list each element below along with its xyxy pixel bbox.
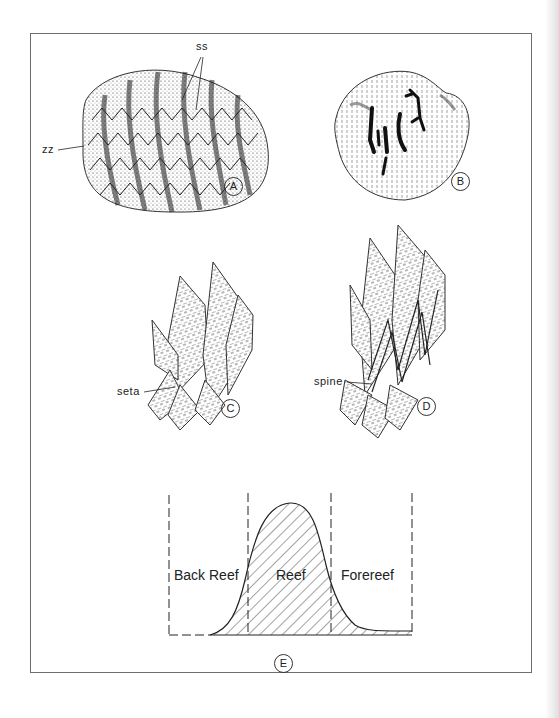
label-spine: spine	[314, 375, 343, 387]
panel-label-d: D	[417, 397, 436, 416]
label-ss: ss	[196, 40, 208, 52]
panel-label-b: B	[451, 172, 470, 191]
panel-label-c: C	[221, 399, 240, 418]
panel-label-a: A	[224, 177, 243, 196]
panel-label-e: E	[274, 654, 293, 673]
zone-label-back-reef: Back Reef	[174, 567, 239, 583]
zone-label-forereef: Forereef	[341, 567, 394, 583]
zone-label-reef: Reef	[276, 567, 306, 583]
label-seta: seta	[117, 385, 140, 397]
figure-drawings	[0, 0, 559, 718]
panel-b-shell	[335, 71, 469, 200]
panel-e-chart	[169, 493, 412, 635]
label-zz: zz	[42, 143, 54, 155]
